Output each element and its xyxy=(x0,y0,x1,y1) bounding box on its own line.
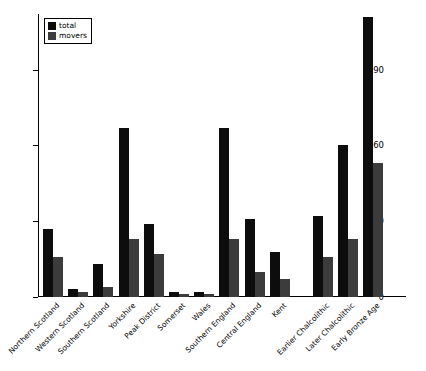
bar-total xyxy=(169,292,179,297)
bar-total xyxy=(338,145,348,297)
bar-group xyxy=(338,14,358,297)
bar-group xyxy=(194,14,214,297)
bar-chart: total movers 0306090Northern ScotlandWes… xyxy=(0,0,426,371)
bar-movers xyxy=(154,254,164,297)
bar-group xyxy=(363,14,383,297)
bar-movers xyxy=(323,257,333,297)
bar-movers xyxy=(103,287,113,297)
bar-total xyxy=(245,219,255,297)
bar-total xyxy=(363,17,373,297)
bar-total xyxy=(313,216,323,297)
bar-group xyxy=(43,14,63,297)
bar-total xyxy=(119,128,129,297)
bar-group xyxy=(68,14,88,297)
y-axis-tick-mark xyxy=(33,221,38,222)
bar-group xyxy=(93,14,113,297)
bar-movers xyxy=(204,294,214,297)
bar-movers xyxy=(255,272,265,297)
bar-total xyxy=(43,229,53,297)
bar-group xyxy=(313,14,333,297)
bar-group xyxy=(119,14,139,297)
y-axis-tick-mark xyxy=(33,297,38,298)
bar-group xyxy=(270,14,290,297)
bar-total xyxy=(144,224,154,297)
bar-movers xyxy=(129,239,139,297)
bar-movers xyxy=(78,292,88,297)
x-axis-tick-label: Early Bronze Age xyxy=(291,301,382,371)
bar-total xyxy=(270,252,280,297)
bar-group xyxy=(144,14,164,297)
bar-total xyxy=(93,264,103,297)
bar-group xyxy=(169,14,189,297)
y-axis-tick-mark xyxy=(33,70,38,71)
bar-group xyxy=(245,14,265,297)
bar-movers xyxy=(179,294,189,297)
bar-movers xyxy=(229,239,239,297)
bar-group xyxy=(219,14,239,297)
bar-movers xyxy=(53,257,63,297)
bar-total xyxy=(68,289,78,297)
bar-movers xyxy=(280,279,290,297)
bar-movers xyxy=(373,163,383,297)
bar-total xyxy=(194,292,204,297)
bar-movers xyxy=(348,239,358,297)
y-axis-tick-mark xyxy=(33,145,38,146)
bar-total xyxy=(219,128,229,297)
